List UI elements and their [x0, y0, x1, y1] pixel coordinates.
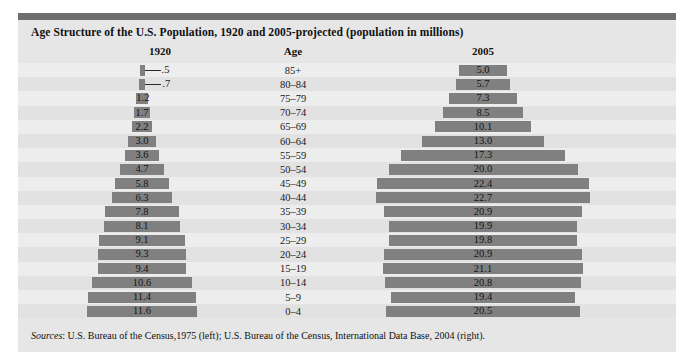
pyramid-row: 2.265–6910.1 [18, 120, 676, 134]
population-pyramid-plot: .585+5.0.780–845.71.275–797.31.770–748.5… [18, 63, 676, 319]
pyramid-row: 9.320–2420.9 [18, 247, 676, 261]
bar-label-1920: 11.4 [88, 291, 196, 303]
bar-label-2005: 19.9 [389, 220, 577, 232]
pyramid-row: 7.835–3920.9 [18, 205, 676, 219]
bar-label-1920: 3.6 [125, 149, 159, 161]
bar-label-2005: 20.0 [389, 163, 578, 175]
age-group-label: 20–24 [247, 248, 339, 261]
pyramid-row: 1.770–748.5 [18, 106, 676, 120]
bar-label-1920: 9.1 [99, 234, 185, 246]
column-header-2005: 2005 [437, 45, 529, 59]
pyramid-row: 3.655–5917.3 [18, 148, 676, 162]
bar-label-2005: 20.9 [384, 248, 582, 260]
bar-1920 [139, 79, 146, 90]
age-group-label: 80–84 [247, 78, 339, 91]
pyramid-row: 8.130–3419.9 [18, 219, 676, 233]
bar-label-2005: 20.9 [384, 206, 582, 218]
age-group-label: 25–29 [247, 234, 339, 247]
bar-label-2005: 19.8 [389, 234, 576, 246]
age-group-label: 65–69 [247, 120, 339, 133]
chart-panel: Age Structure of the U.S. Population, 19… [18, 13, 676, 352]
pyramid-row: 1.275–797.3 [18, 91, 676, 105]
pyramid-row: 9.125–2919.8 [18, 233, 676, 247]
bar-label-2005: 20.5 [386, 305, 580, 317]
bar-label-2005: 17.3 [401, 149, 564, 161]
age-group-label: 40–44 [247, 191, 339, 204]
bar-label-1920: 5.8 [115, 178, 170, 190]
pyramid-row: 5.845–4922.4 [18, 177, 676, 191]
age-group-label: 70–74 [247, 106, 339, 119]
bar-label-2005: 10.1 [435, 121, 530, 133]
age-group-label: 30–34 [247, 220, 339, 233]
leader-line [145, 70, 161, 71]
age-group-label: 50–54 [247, 163, 339, 176]
age-group-label: 5–9 [247, 291, 339, 304]
age-group-label: 15–19 [247, 262, 339, 275]
pyramid-row: 3.060–6413.0 [18, 134, 676, 148]
sources-label: Sources [31, 330, 62, 341]
bar-label-1920: 7.8 [105, 206, 179, 218]
age-group-label: 60–64 [247, 135, 339, 148]
bar-label-1920: 2.2 [132, 121, 153, 133]
pyramid-row: 10.610–1420.8 [18, 276, 676, 290]
bar-label-1920: 3.0 [128, 135, 156, 147]
column-header-1920: 1920 [114, 45, 206, 59]
age-group-label: 75–79 [247, 92, 339, 105]
pyramid-row: 9.415–1921.1 [18, 262, 676, 276]
age-group-label: 85+ [247, 64, 339, 77]
pyramid-row: 6.340–4422.7 [18, 191, 676, 205]
bar-label-2005: 20.8 [385, 277, 582, 289]
pyramid-row: .585+5.0 [18, 63, 676, 77]
age-group-label: 55–59 [247, 149, 339, 162]
bar-label-2005: 22.4 [377, 178, 589, 190]
sources-body: : U.S. Bureau of the Census,1975 (left);… [62, 330, 485, 341]
bar-label-1920: 6.3 [112, 192, 172, 204]
bar-label-1920: 1.2 [136, 92, 147, 104]
bar-label-1920: 4.7 [120, 163, 164, 175]
age-group-label: 10–14 [247, 276, 339, 289]
bar-label-2005: 21.1 [383, 263, 582, 275]
age-group-label: 0–4 [247, 305, 339, 318]
bar-label-1920: 9.3 [98, 248, 186, 260]
bar-label-2005: 13.0 [422, 135, 545, 147]
bar-label-1920: .5 [162, 64, 184, 76]
pyramid-row: 4.750–5420.0 [18, 162, 676, 176]
pyramid-row: 11.60–420.5 [18, 304, 676, 318]
bar-label-1920: 10.6 [92, 277, 192, 289]
age-group-label: 35–39 [247, 205, 339, 218]
pyramid-row: .780–845.7 [18, 77, 676, 91]
pyramid-row: 11.45–919.4 [18, 290, 676, 304]
leader-line [145, 84, 161, 85]
bar-label-2005: 7.3 [449, 92, 518, 104]
bar-label-1920: 9.4 [98, 263, 187, 275]
chart-canvas: Age Structure of the U.S. Population, 19… [0, 0, 696, 358]
bar-label-2005: 8.5 [443, 107, 523, 119]
bar-label-2005: 5.7 [456, 78, 510, 90]
sources-note: Sources: U.S. Bureau of the Census,1975 … [31, 330, 485, 341]
page-title: Age Structure of the U.S. Population, 19… [31, 26, 463, 38]
panel-top-bar [18, 13, 676, 20]
bar-label-2005: 5.0 [459, 64, 506, 76]
bar-label-1920: 1.7 [134, 107, 150, 119]
bar-label-2005: 22.7 [376, 192, 591, 204]
bar-label-1920: 11.6 [87, 305, 197, 317]
bar-label-1920: 8.1 [104, 220, 181, 232]
bar-label-1920: .7 [162, 78, 184, 90]
age-group-label: 45–49 [247, 177, 339, 190]
bar-label-2005: 19.4 [391, 291, 574, 303]
column-header-age: Age [247, 45, 339, 59]
